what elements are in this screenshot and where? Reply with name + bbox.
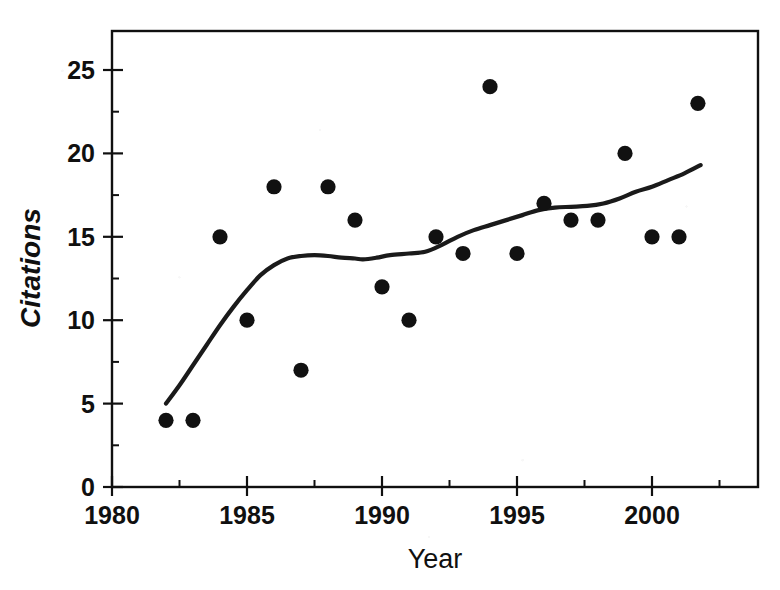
data-point (509, 246, 524, 261)
x-tick-label: 1980 (84, 501, 140, 529)
data-point (617, 146, 632, 161)
data-point (644, 229, 659, 244)
data-point (428, 229, 443, 244)
data-point (401, 313, 416, 328)
data-point (347, 213, 362, 228)
y-axis-title: Citations (15, 208, 46, 328)
x-tick-label: 1985 (219, 501, 275, 529)
y-tick-label: 0 (81, 473, 95, 501)
data-point (455, 246, 470, 261)
data-point (563, 213, 578, 228)
data-point (536, 196, 551, 211)
data-point (212, 229, 227, 244)
data-point (320, 179, 335, 194)
data-point (266, 179, 281, 194)
citations-scatter-chart: 19801985199019952000 0510152025 Year Cit… (0, 0, 780, 590)
y-tick-label: 20 (67, 139, 95, 167)
data-point (482, 79, 497, 94)
figure-container: 19801985199019952000 0510152025 Year Cit… (0, 0, 780, 590)
data-point (690, 96, 705, 111)
data-point (293, 363, 308, 378)
data-point (590, 213, 605, 228)
y-tick-label: 15 (67, 223, 95, 251)
y-tick-label: 5 (81, 390, 95, 418)
x-tick-label: 2000 (624, 501, 680, 529)
data-point (185, 413, 200, 428)
data-point (671, 229, 686, 244)
x-tick-label: 1990 (354, 501, 410, 529)
data-point (374, 279, 389, 294)
x-axis-title: Year (408, 544, 463, 574)
y-tick-label: 25 (67, 56, 95, 84)
data-point (239, 313, 254, 328)
data-point (158, 413, 173, 428)
x-tick-label: 1995 (489, 501, 545, 529)
y-tick-label: 10 (67, 306, 95, 334)
